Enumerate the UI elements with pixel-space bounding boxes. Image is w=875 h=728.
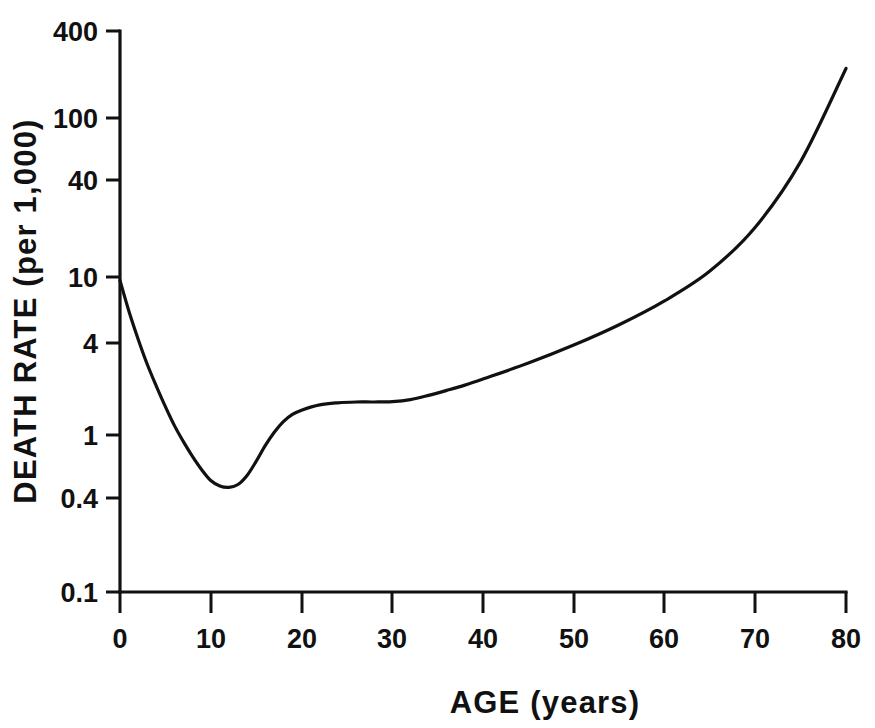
y-tick-label-40: 40: [68, 166, 98, 196]
y-tick-label-0.1: 0.1: [60, 578, 98, 608]
chart-page: 400 100 40 10 4 1 0.4 0.1 0 10 20 30: [0, 0, 875, 728]
x-axis-tick-labels: 0 10 20 30 40 50 60 70 80: [112, 624, 861, 654]
y-tick-label-4: 4: [83, 329, 98, 359]
x-tick-label-10: 10: [196, 624, 226, 654]
y-tick-label-400: 400: [53, 17, 98, 47]
x-axis-title: AGE (years): [450, 685, 641, 720]
y-tick-label-100: 100: [53, 104, 98, 134]
y-tick-label-1: 1: [83, 421, 98, 451]
x-tick-label-50: 50: [559, 624, 589, 654]
x-tick-label-60: 60: [649, 624, 679, 654]
y-tick-label-0.4: 0.4: [60, 484, 98, 514]
death-rate-vs-age-chart: 400 100 40 10 4 1 0.4 0.1 0 10 20 30: [0, 0, 875, 728]
x-tick-label-80: 80: [831, 624, 861, 654]
x-tick-label-70: 70: [740, 624, 770, 654]
y-axis-title: DEATH RATE (per 1,000): [8, 118, 43, 503]
x-tick-label-30: 30: [377, 624, 407, 654]
y-tick-label-10: 10: [68, 263, 98, 293]
x-tick-label-20: 20: [287, 624, 317, 654]
x-tick-label-0: 0: [112, 624, 127, 654]
chart-background: [0, 0, 875, 728]
x-tick-label-40: 40: [468, 624, 498, 654]
